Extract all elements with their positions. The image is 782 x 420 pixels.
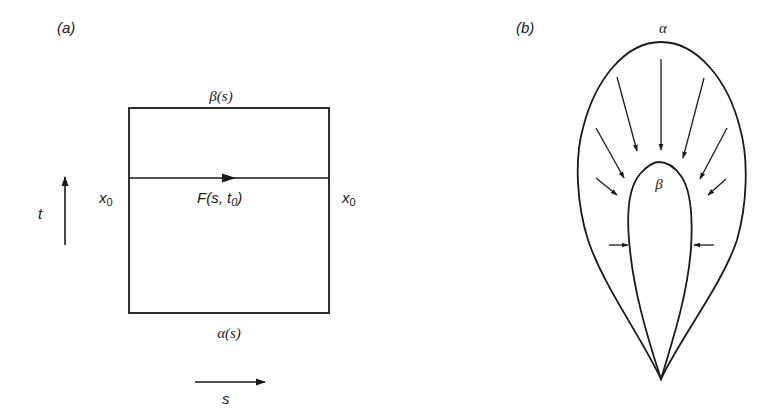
outer-loop-alpha (578, 42, 746, 379)
bottom-edge-label: α(s) (217, 325, 241, 342)
s-axis-label: s (222, 390, 230, 407)
outer-loop-label: α (659, 20, 668, 36)
panel-a: (a) β(s) α(s) x0 x0 F(s, t0) t s (38, 19, 356, 407)
arrow-icon (700, 128, 727, 179)
panel-a-label: (a) (57, 19, 75, 36)
homotopy-figure: (a) β(s) α(s) x0 x0 F(s, t0) t s (b) α (0, 0, 782, 420)
homotopy-square (129, 108, 329, 313)
arrow-icon (617, 77, 637, 151)
panel-b-label: (b) (516, 19, 534, 36)
panel-b: (b) α β (516, 19, 746, 379)
left-basepoint-label: x0 (98, 189, 113, 208)
path-f-label: F(s, t0) (197, 189, 242, 208)
top-edge-label: β(s) (208, 88, 232, 105)
t-axis-label: t (38, 205, 43, 222)
inner-loop-label: β (654, 176, 663, 192)
path-direction-arrow-icon (222, 174, 236, 183)
inner-loop-beta (628, 162, 692, 379)
arrow-icon (596, 178, 617, 195)
arrow-icon (708, 179, 726, 195)
homotopy-arrows (596, 59, 727, 245)
arrow-icon (683, 78, 704, 158)
right-basepoint-label: x0 (341, 189, 356, 208)
arrow-icon (596, 128, 624, 178)
